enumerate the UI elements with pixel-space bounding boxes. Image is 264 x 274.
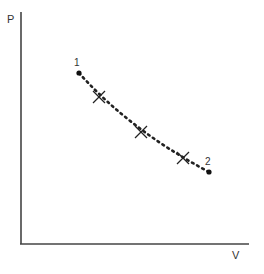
pv-diagram: P V 1 2 [0, 0, 264, 274]
point-2-label: 2 [205, 156, 211, 167]
cross-marker-3 [177, 152, 189, 164]
y-axis-label: P [7, 13, 14, 25]
state-point-1 [76, 70, 81, 75]
state-point-2 [206, 169, 211, 174]
point-1-label: 1 [74, 57, 80, 68]
x-axis-label: V [232, 249, 240, 261]
process-curve [79, 73, 209, 172]
